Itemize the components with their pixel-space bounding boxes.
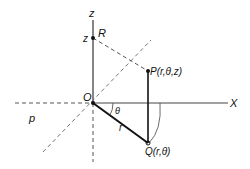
label-z-value: z xyxy=(82,33,88,44)
label-O: O xyxy=(83,91,92,103)
label-p: p xyxy=(28,112,35,124)
label-Q: Q(r,θ) xyxy=(145,146,170,157)
theta-arc xyxy=(110,103,113,115)
point-origin xyxy=(91,101,95,105)
label-z-axis: z xyxy=(88,7,95,19)
label-X: X xyxy=(229,97,238,109)
point-R xyxy=(91,36,95,40)
cylindrical-coordinates-diagram: z z R P(r,θ,z) O X θ r Q(r,θ) p xyxy=(0,0,250,169)
r-to-p-dashed xyxy=(93,38,148,71)
label-R: R xyxy=(98,27,106,39)
y-axis-dashed xyxy=(43,40,151,152)
radius-arc xyxy=(149,103,160,143)
label-P: P(r,θ,z) xyxy=(150,66,182,77)
label-theta: θ xyxy=(115,106,120,116)
